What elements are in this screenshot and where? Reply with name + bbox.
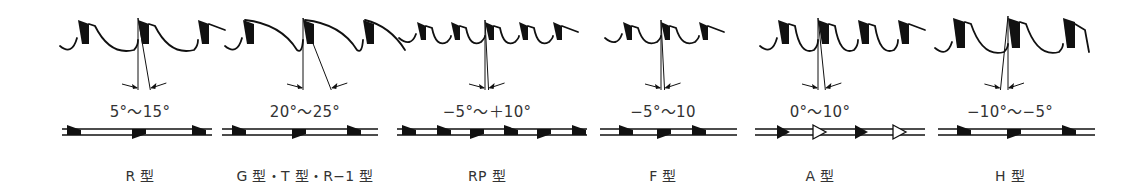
plan-tooth-marker [619,125,633,135]
angle-label-g-type: 20°～25° [270,100,340,121]
plan-tooth-marker [537,129,551,139]
arrowhead-icon [479,84,485,89]
plan-tooth-marker [657,129,671,139]
plan-tooth-marker [504,125,518,135]
rake-angle-line [303,18,331,90]
plan-tooth-marker [192,125,206,135]
plan-tooth-marker-hollow [813,125,826,139]
arrowhead-icon [150,83,156,89]
plan-tooth-marker [957,125,971,135]
tooth-tip [243,20,254,44]
tooth-tip [953,18,965,48]
tooth-tip [138,20,149,44]
plan-tooth-marker [777,125,790,139]
plan-tooth-marker [232,125,246,135]
tooth-tip [1008,18,1020,48]
tooth-tip [1063,18,1075,48]
arrowhead-icon [297,84,303,89]
plan-tooth-marker [1007,129,1021,139]
tooth-tip [519,22,528,40]
saw-tooth-diagram [0,0,1147,196]
plan-tooth-marker [132,129,146,139]
arrowhead-icon [1008,83,1014,89]
tooth-tip [417,22,426,40]
arrowhead-icon [812,84,818,89]
plan-tooth-marker [292,129,306,139]
plan-tooth-marker [437,125,451,135]
plan-tooth-marker [1062,125,1076,135]
tooth-tip [198,20,209,44]
tooth-tip [363,20,374,44]
arrowhead-icon [665,83,671,89]
arrowhead-icon [825,83,831,89]
tooth-tip [78,20,89,44]
type-label-r: R 型 [125,165,154,185]
type-label-a: A 型 [806,165,835,185]
tooth-tip [898,20,909,44]
plan-tooth-marker [67,125,81,135]
plan-tooth-marker [572,125,586,135]
arrowhead-icon [994,84,1000,89]
type-label-h: H 型 [995,165,1025,185]
plan-tooth-marker [855,125,868,139]
angle-label-f-type: −5°～10 [630,100,696,121]
type-label-rp: RP 型 [468,165,506,185]
type-label-f: F 型 [649,165,676,185]
tooth-tip [623,22,632,40]
angle-label-a-type: 0°～10° [790,100,850,121]
type-label-g-t-r1: G 型・T 型・R−1 型 [236,165,373,185]
plan-tooth-marker [347,125,361,135]
plan-tooth-marker [402,125,416,135]
plan-tooth-marker [692,125,706,135]
arrowhead-icon [655,84,661,89]
tooth-tip [553,22,562,40]
angle-label-h-type: −10°～−5° [967,100,1053,121]
plan-tooth-marker-hollow [893,125,906,139]
plan-tooth-marker [470,129,484,139]
tooth-tip [699,22,708,40]
arrowhead-icon [489,83,495,89]
tooth-tip [858,20,869,44]
tooth-tip [451,22,460,40]
arrowhead-icon [132,84,138,89]
tooth-tip [778,20,789,44]
angle-label-r-type: 5°～15° [110,100,170,121]
arrowhead-icon [331,83,337,89]
angle-label-rp-type: −5°～＋10° [443,100,532,121]
